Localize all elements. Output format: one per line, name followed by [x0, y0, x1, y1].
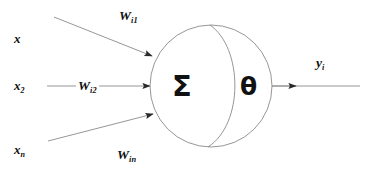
weight-base-win: W [117, 147, 129, 162]
summation-symbol: Σ [172, 72, 192, 101]
output-label-yi: yi [316, 56, 325, 72]
input-label-xn: xn [14, 143, 25, 159]
input-subscript-x2: 2 [21, 86, 25, 95]
edge-input-bottom [48, 114, 153, 141]
weight-subscript-wi1: i1 [131, 16, 138, 25]
input-label-x2: x2 [14, 79, 25, 95]
weight-label-wi2: Wi2 [76, 79, 99, 95]
weight-subscript-wi2: i2 [90, 86, 97, 95]
output-subscript-yi: i [322, 63, 325, 72]
weight-label-wi1: Wi1 [119, 9, 138, 25]
neuron-divider-arc [208, 25, 235, 147]
weight-subscript-win: in [129, 155, 136, 164]
input-base-x1: x [14, 31, 21, 46]
weight-base-wi1: W [119, 8, 131, 23]
threshold-symbol: θ [240, 74, 257, 99]
weight-label-win: Win [117, 148, 136, 164]
input-subscript-xn: n [21, 150, 26, 159]
input-label-x1: x [14, 32, 21, 48]
neuron-diagram: Σ θ x x2 xn Wi1 Wi2 Win yi [0, 0, 370, 177]
weight-base-wi2: W [78, 78, 90, 93]
